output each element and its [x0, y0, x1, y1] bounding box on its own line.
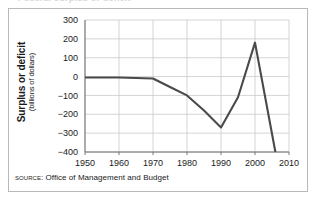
- gridlines: [85, 20, 289, 152]
- x-tick-label: 1950: [75, 158, 95, 168]
- y-tick-label: −300: [58, 128, 78, 138]
- y-tick-label: −200: [58, 109, 78, 119]
- x-tick-label: 1980: [177, 158, 197, 168]
- x-tick-label: 2000: [245, 158, 265, 168]
- x-tick-label: 2010: [279, 158, 299, 168]
- x-tick-label: 1990: [211, 158, 231, 168]
- figure-container: Federal surplus or deficit Surplus or de…: [0, 0, 317, 200]
- data-series-line: [85, 43, 275, 152]
- y-tick-label: 100: [63, 53, 78, 63]
- y-tick-label: 300: [63, 15, 78, 25]
- source-value: Office of Management and Budget: [46, 173, 169, 182]
- y-tick-label: 200: [63, 34, 78, 44]
- x-tick-label: 1970: [143, 158, 163, 168]
- x-tick-labels: 1950196019701980199020002010: [75, 158, 299, 168]
- y-tick-label: 0: [73, 72, 78, 82]
- x-tick-label: 1960: [109, 158, 129, 168]
- source-note: Source: Office of Management and Budget: [15, 173, 169, 182]
- y-tick-labels: 3002001000−100−200−300−400: [58, 15, 78, 157]
- y-tick-label: −100: [58, 91, 78, 101]
- y-tick-label: −400: [58, 147, 78, 157]
- line-chart-plot: 3002001000−100−200−300−400 1950196019701…: [0, 0, 317, 200]
- source-label: Source:: [15, 173, 43, 182]
